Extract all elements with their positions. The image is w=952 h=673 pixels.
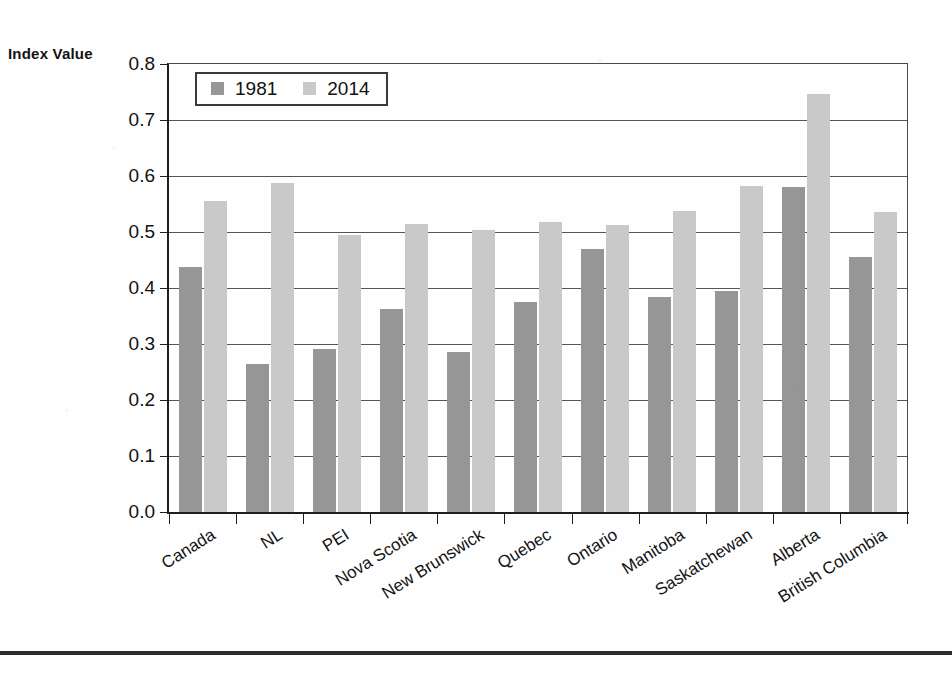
bar-nova-scotia-2014 [405, 224, 428, 512]
y-axis-tick [160, 64, 169, 65]
y-axis-tick [160, 176, 169, 177]
gridline [169, 120, 907, 121]
bar-british-columbia-1981 [849, 257, 872, 512]
bar-british-columbia-2014 [874, 212, 897, 512]
y-axis-tick [160, 512, 169, 513]
x-axis-tick [236, 512, 237, 524]
y-axis-tick [160, 344, 169, 345]
x-axis-line [167, 512, 909, 514]
bar-saskatchewan-1981 [715, 291, 738, 512]
gridline [169, 176, 907, 177]
y-axis-tick [160, 120, 169, 121]
x-axis-tick [773, 512, 774, 524]
chart-figure: Index Value 0.00.10.20.30.40.50.60.70.8 … [0, 0, 952, 673]
x-axis-tick [572, 512, 573, 524]
y-axis-tick-label: 0.6 [129, 165, 155, 187]
bar-new-brunswick-2014 [472, 230, 495, 512]
x-axis-label-ontario: Ontario [564, 525, 622, 572]
bar-pei-1981 [313, 349, 336, 512]
legend-swatch-icon [303, 82, 316, 95]
bar-quebec-2014 [539, 222, 562, 512]
chart-legend: 19812014 [195, 72, 388, 106]
bar-ontario-1981 [581, 249, 604, 512]
figure-bottom-rule [0, 651, 952, 655]
y-axis-tick-label: 0.5 [129, 221, 155, 243]
y-axis-tick-label: 0.1 [129, 445, 155, 467]
x-axis-label-nl: NL [257, 525, 286, 553]
bar-canada-1981 [179, 267, 202, 512]
y-axis-tick-label: 0.8 [129, 53, 155, 75]
bar-manitoba-1981 [648, 297, 671, 512]
y-axis-tick-label: 0.3 [129, 333, 155, 355]
x-axis-label-quebec: Quebec [494, 525, 555, 574]
x-axis-label-alberta: Alberta [767, 525, 823, 571]
bar-saskatchewan-2014 [740, 186, 763, 512]
x-axis-label-canada: Canada [158, 525, 219, 574]
x-axis-tick [370, 512, 371, 524]
plot-area: 0.00.10.20.30.40.50.60.70.8 [167, 63, 908, 512]
y-axis-tick [160, 232, 169, 233]
bar-alberta-1981 [782, 187, 805, 512]
bar-nl-1981 [246, 364, 269, 512]
y-axis-tick [160, 456, 169, 457]
y-axis-tick-label: 0.4 [129, 277, 155, 299]
x-axis-tick [437, 512, 438, 524]
legend-label: 2014 [327, 79, 369, 98]
x-axis-label-pei: PEI [320, 525, 354, 556]
x-axis-tick [504, 512, 505, 524]
x-axis-tick [840, 512, 841, 524]
y-axis-tick-label: 0.7 [129, 109, 155, 131]
bar-quebec-1981 [514, 302, 537, 512]
y-axis-tick [160, 288, 169, 289]
x-axis-tick [706, 512, 707, 524]
bar-canada-2014 [204, 201, 227, 512]
bar-nova-scotia-1981 [380, 309, 403, 512]
x-axis-tick [907, 512, 908, 524]
bar-new-brunswick-1981 [447, 352, 470, 512]
legend-swatch-icon [211, 82, 224, 95]
x-axis-tick [303, 512, 304, 524]
legend-entry-2014: 2014 [303, 79, 369, 98]
x-axis-tick [169, 512, 170, 524]
bar-nl-2014 [271, 183, 294, 512]
bar-ontario-2014 [606, 225, 629, 512]
y-axis-title: Index Value [8, 45, 93, 62]
y-axis-tick-label: 0.2 [129, 389, 155, 411]
bar-manitoba-2014 [673, 211, 696, 512]
legend-entry-1981: 1981 [211, 79, 277, 98]
bar-alberta-2014 [807, 94, 830, 512]
bar-pei-2014 [338, 235, 361, 512]
x-axis-tick [639, 512, 640, 524]
y-axis-tick [160, 400, 169, 401]
y-axis-tick-label: 0.0 [129, 501, 155, 523]
legend-label: 1981 [235, 79, 277, 98]
